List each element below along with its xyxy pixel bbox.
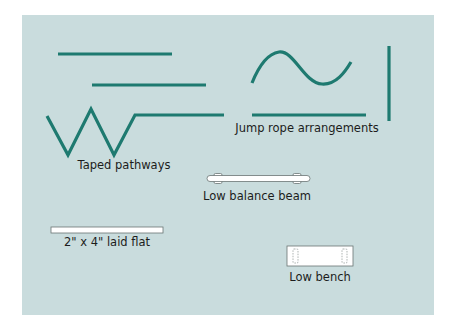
jump-rope-wave — [252, 52, 351, 84]
label-taped-pathways: Taped pathways — [78, 160, 171, 172]
low-bench-shape — [287, 246, 353, 266]
two-by-four-board — [51, 227, 163, 233]
diagram-art — [0, 0, 456, 333]
balance-beam-shape — [207, 174, 310, 184]
label-jump-rope-arrangements: Jump rope arrangements — [235, 123, 378, 135]
label-low-bench: Low bench — [289, 272, 351, 284]
label-two-by-four: 2" x 4" laid flat — [64, 237, 150, 249]
label-low-balance-beam: Low balance beam — [203, 191, 311, 203]
taped-pathways-shapes — [47, 54, 224, 155]
beam-bar — [207, 176, 310, 182]
tape-zigzag — [47, 109, 224, 155]
jump-rope-shapes — [252, 46, 389, 121]
